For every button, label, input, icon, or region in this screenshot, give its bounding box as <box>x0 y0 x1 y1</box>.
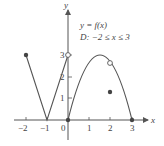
y-ticks: 1 2 3 <box>60 50 72 103</box>
svg-text:3: 3 <box>130 123 135 133</box>
function-label: y = f(x) <box>79 20 107 30</box>
y-axis-label: y <box>63 0 68 10</box>
v-shaped-segments <box>26 55 68 120</box>
domain-label: D: −2 ≤ x ≤ 3 <box>79 32 130 42</box>
svg-text:1: 1 <box>87 123 92 133</box>
filled-point-origin <box>66 118 70 122</box>
filled-point-3-0 <box>130 118 134 122</box>
filled-point-neg2-3 <box>24 53 28 57</box>
svg-text:3: 3 <box>60 50 65 60</box>
open-point-2-2.7 <box>108 61 113 66</box>
svg-text:−2: −2 <box>18 123 28 133</box>
svg-text:0: 0 <box>61 123 66 133</box>
open-point-0-3 <box>66 53 71 58</box>
function-graph: x y −2 −1 0 1 2 3 1 2 3 y = f(x) D: −2 ≤… <box>0 0 164 146</box>
svg-text:2: 2 <box>108 123 113 133</box>
parabola-curve <box>68 55 132 120</box>
x-ticks: −2 −1 0 1 2 3 <box>18 117 135 133</box>
svg-text:1: 1 <box>60 93 65 103</box>
svg-text:−1: −1 <box>40 123 50 133</box>
x-axis-label: x <box>150 115 155 125</box>
filled-point-2-1.3 <box>108 90 112 94</box>
